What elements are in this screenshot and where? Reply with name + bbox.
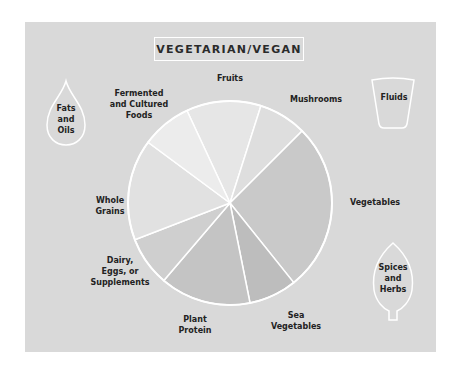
cup-icon: [372, 78, 414, 128]
label-vegetables: Vegetables: [340, 197, 410, 208]
label-dairy-eggs-supplements: Dairy, Eggs, or Supplements: [82, 255, 158, 288]
label-fluids: Fluids: [373, 92, 415, 103]
label-spices-and-herbs: Spices and Herbs: [371, 262, 415, 295]
label-fruits: Fruits: [205, 73, 255, 84]
label-sea-vegetables: Sea Vegetables: [266, 310, 326, 332]
label-fermented-foods: Fermented and Cultured Foods: [100, 88, 178, 121]
label-whole-grains: Whole Grains: [85, 195, 135, 217]
label-fats-and-oils: Fats and Oils: [50, 103, 82, 136]
pie-slices: [128, 101, 332, 305]
pie-chart: [0, 0, 457, 375]
label-mushrooms: Mushrooms: [280, 94, 352, 105]
label-plant-protein: Plant Protein: [170, 314, 220, 336]
